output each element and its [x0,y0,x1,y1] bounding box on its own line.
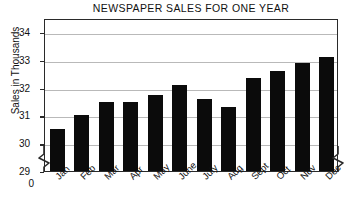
chart-title: NEWSPAPER SALES FOR ONE YEAR [44,2,338,14]
y-axis-tick-label: 34 [8,27,30,38]
chart-page: NEWSPAPER SALES FOR ONE YEAR Sales in Th… [0,0,353,224]
plot-area [44,19,338,172]
bar-july [197,99,212,171]
bar-feb [74,115,89,171]
bar-nov [295,63,310,172]
y-axis-tick-label: 33 [8,55,30,66]
y-axis-zero-label: 0 [12,178,34,189]
y-axis-tick-label: 31 [8,110,30,121]
bar-aug [221,107,236,171]
bar-may [148,95,163,172]
bar-mar [99,102,114,172]
bar-oct [270,71,285,171]
y-axis-tick-label: 29 [8,166,30,177]
x-axis-tick-labels: JanFebMarAprMayJuneJulyAugSeptOctNovDec [44,174,338,224]
y-axis-tick-label: 30 [8,138,30,149]
y-axis-tick-label: 32 [8,83,30,94]
bar-sept [246,78,261,171]
bar-june [172,85,187,171]
bar-series [45,20,337,171]
bar-apr [123,102,138,172]
axis-break-zigzag-left-icon [37,146,51,172]
